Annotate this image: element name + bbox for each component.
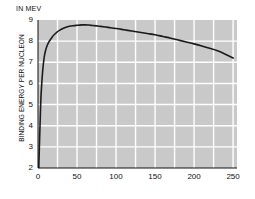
x-tick-label: 50	[62, 173, 92, 181]
y-axis-title: BINDING ENERGY PER NUCLEON	[18, 18, 26, 158]
x-tick-label: 250	[218, 173, 248, 181]
x-tick-label: 100	[101, 173, 131, 181]
binding-energy-chart: IN MEV BINDING ENERGY PER NUCLEON 234567…	[0, 0, 255, 199]
plot-area	[38, 20, 237, 168]
x-tick-label: 0	[23, 173, 53, 181]
y-tick-label: 2	[19, 164, 33, 172]
y-axis-unit-label: IN MEV	[16, 4, 41, 13]
x-tick-label: 150	[140, 173, 170, 181]
plot-svg	[38, 20, 237, 168]
gridlines	[38, 20, 237, 168]
x-tick-label: 200	[179, 173, 209, 181]
